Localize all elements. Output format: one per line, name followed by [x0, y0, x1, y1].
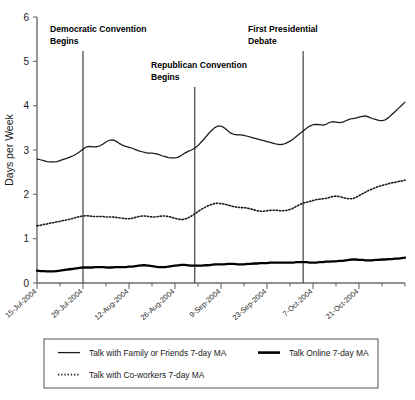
event-annotation-label: Republican Convention [151, 60, 247, 70]
legend-label: Talk Online 7-day MA [289, 348, 369, 358]
y-tick-label: 3 [23, 145, 29, 156]
series-line-co-workers [37, 180, 405, 226]
legend-label: Talk with Family or Friends 7-day MA [89, 348, 227, 358]
x-tick-label: 7-Oct-2004 [281, 287, 315, 318]
event-annotation-label: Democratic Convention [50, 24, 146, 34]
y-tick-label: 6 [23, 12, 29, 23]
y-axis-title: Days per Week [3, 113, 15, 185]
y-axis-ticks: 0123456 [23, 12, 37, 289]
y-tick-label: 0 [23, 278, 29, 289]
series-line-talk-online [37, 258, 405, 272]
x-tick-label: 15-Jul-2004 [3, 287, 38, 320]
x-tick-label: 29-Jul-2004 [49, 287, 84, 320]
y-tick-label: 5 [23, 56, 29, 67]
chart-legend: Talk with Family or Friends 7-day MATalk… [44, 339, 378, 388]
x-tick-label: 12-Aug-2004 [93, 287, 131, 322]
y-tick-label: 4 [23, 100, 29, 111]
x-tick-label: 21-Oct-2004 [324, 287, 361, 321]
event-marker-lines [83, 51, 303, 283]
x-axis-tick-labels: 15-Jul-200429-Jul-200412-Aug-200426-Aug-… [3, 287, 360, 322]
event-annotations: Democratic ConventionBeginsRepublican Co… [50, 24, 318, 82]
x-axis-ticks [37, 283, 405, 289]
event-annotation-label: First Presidential [248, 24, 318, 34]
x-tick-label: 23-Sep-2004 [231, 287, 269, 322]
legend-label: Talk with Co-workers 7-day MA [89, 370, 205, 380]
y-tick-label: 1 [23, 233, 29, 244]
event-annotation-label: Debate [248, 36, 277, 46]
chart-container: 0123456 15-Jul-200429-Jul-200412-Aug-200… [0, 0, 415, 400]
x-tick-label: 26-Aug-2004 [139, 287, 177, 322]
y-tick-label: 2 [23, 189, 29, 200]
legend-border [44, 339, 378, 388]
event-annotation-label: Begins [50, 36, 79, 46]
line-chart: 0123456 15-Jul-200429-Jul-200412-Aug-200… [0, 0, 415, 400]
event-annotation-label: Begins [151, 72, 180, 82]
x-tick-label: 9-Sep-2004 [188, 287, 223, 320]
series-line-family-or-friends [37, 102, 405, 162]
